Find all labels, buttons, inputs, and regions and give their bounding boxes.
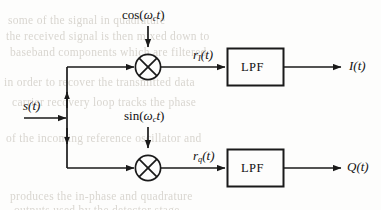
label-input-signal: s(t) [23,99,40,112]
label-output-i: I(t) [349,59,366,72]
diagram-svg [0,0,381,210]
label-carrier-sin: sin(ωct) [124,109,164,124]
label-mixer-out-q: rq(t) [193,149,215,164]
label-mixer-out-i: rI(t) [193,48,213,63]
lpf-lower-label: LPF [241,161,264,176]
label-output-q: Q(t) [347,160,369,173]
label-carrier-cos: cos(ωct) [122,8,165,23]
lpf-upper-label: LPF [241,60,264,75]
figure-canvas: some of the signal in quadraturethe rece… [0,0,381,210]
